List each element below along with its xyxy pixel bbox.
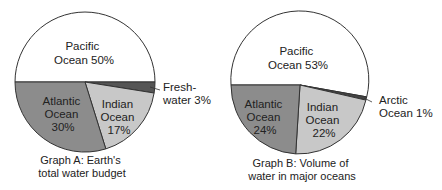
pie-chart-b: Pacific Ocean 53% Atlantic Ocean 24% Ind…	[231, 11, 433, 182]
pie-chart-a: Pacific Ocean 50% Atlantic Ocean 30% Ind…	[15, 12, 211, 179]
charts-canvas: Pacific Ocean 50% Atlantic Ocean 30% Ind…	[0, 0, 442, 190]
label-arctic-b: Arctic Ocean 1%	[379, 94, 433, 119]
label-freshwater-a: Fresh- water 3%	[162, 81, 211, 106]
caption-graph-b: Graph B: Volume of water in major oceans	[247, 157, 356, 182]
caption-graph-a: Graph A: Earth's total water budget	[38, 154, 125, 179]
